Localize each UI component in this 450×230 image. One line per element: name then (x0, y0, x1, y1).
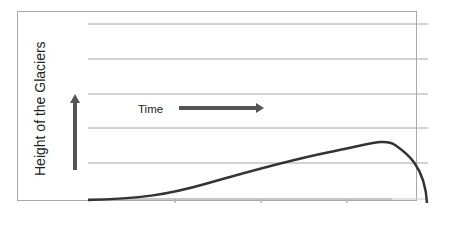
right-arrow-icon (179, 103, 264, 113)
x-axis (88, 199, 428, 203)
y-axis-label: Height of the Glaciers (32, 56, 48, 176)
up-arrow-icon (70, 94, 80, 170)
time-label: Time (138, 103, 163, 115)
glacier-height-line (88, 142, 427, 203)
chart-plot (0, 0, 450, 230)
